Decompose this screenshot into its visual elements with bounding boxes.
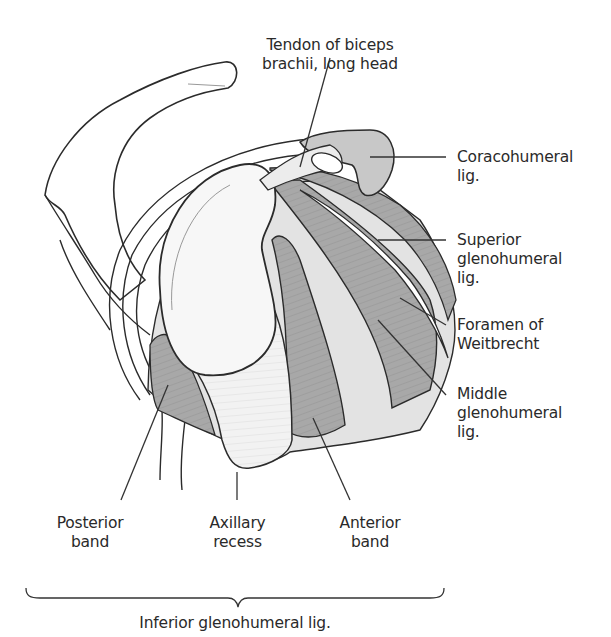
label-anterior-band: Anterior band [325, 514, 415, 552]
shoulder-ligament-diagram: Tendon of biceps brachii, long head Cora… [0, 0, 611, 637]
label-posterior-band: Posterior band [40, 514, 140, 552]
label-inferior-gh: Inferior glenohumeral lig. [100, 614, 370, 633]
label-coracohumeral: Coracohumeral lig. [457, 148, 573, 186]
label-foramen-weitbrecht: Foramen of Weitbrecht [457, 316, 543, 354]
label-middle-gh: Middle glenohumeral lig. [457, 385, 562, 442]
label-axillary-recess: Axillary recess [190, 514, 285, 552]
humeral-head [160, 164, 276, 375]
label-biceps-tendon: Tendon of biceps brachii, long head [245, 36, 415, 74]
inferior-gh-bracket [26, 588, 444, 607]
label-superior-gh: Superior glenohumeral lig. [457, 231, 562, 288]
